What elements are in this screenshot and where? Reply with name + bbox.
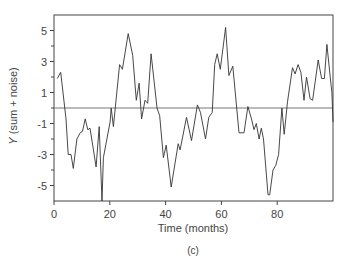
chart: 531-1-3-5 020406080 Y (sum + noise) Time… [0, 0, 351, 267]
series-polyline [57, 27, 333, 201]
x-tick-label: 0 [51, 208, 57, 220]
line-chart: 531-1-3-5 020406080 Y (sum + noise) Time… [0, 0, 351, 267]
x-tick-label: 40 [159, 208, 171, 220]
y-tick-label: 1 [41, 87, 47, 99]
x-tick-label: 60 [215, 208, 227, 220]
y-axis-label: Y (sum + noise) [7, 67, 19, 144]
y-tick-label: -5 [37, 180, 47, 192]
x-tick-label: 80 [271, 208, 283, 220]
y-tick-label: -1 [37, 118, 47, 130]
x-tick-label: 20 [104, 208, 116, 220]
figure-caption: (c) [187, 245, 199, 256]
y-axis-label-rest: (sum + noise) [7, 67, 19, 137]
data-series-line [57, 27, 333, 201]
y-tick-label: -3 [37, 149, 47, 161]
x-axis-ticks: 020406080 [51, 201, 283, 220]
y-tick-label: 3 [41, 56, 47, 68]
y-tick-label: 5 [41, 25, 47, 37]
y-axis-ticks: 531-1-3-5 [37, 25, 54, 192]
x-axis-label: Time (months) [158, 222, 229, 234]
